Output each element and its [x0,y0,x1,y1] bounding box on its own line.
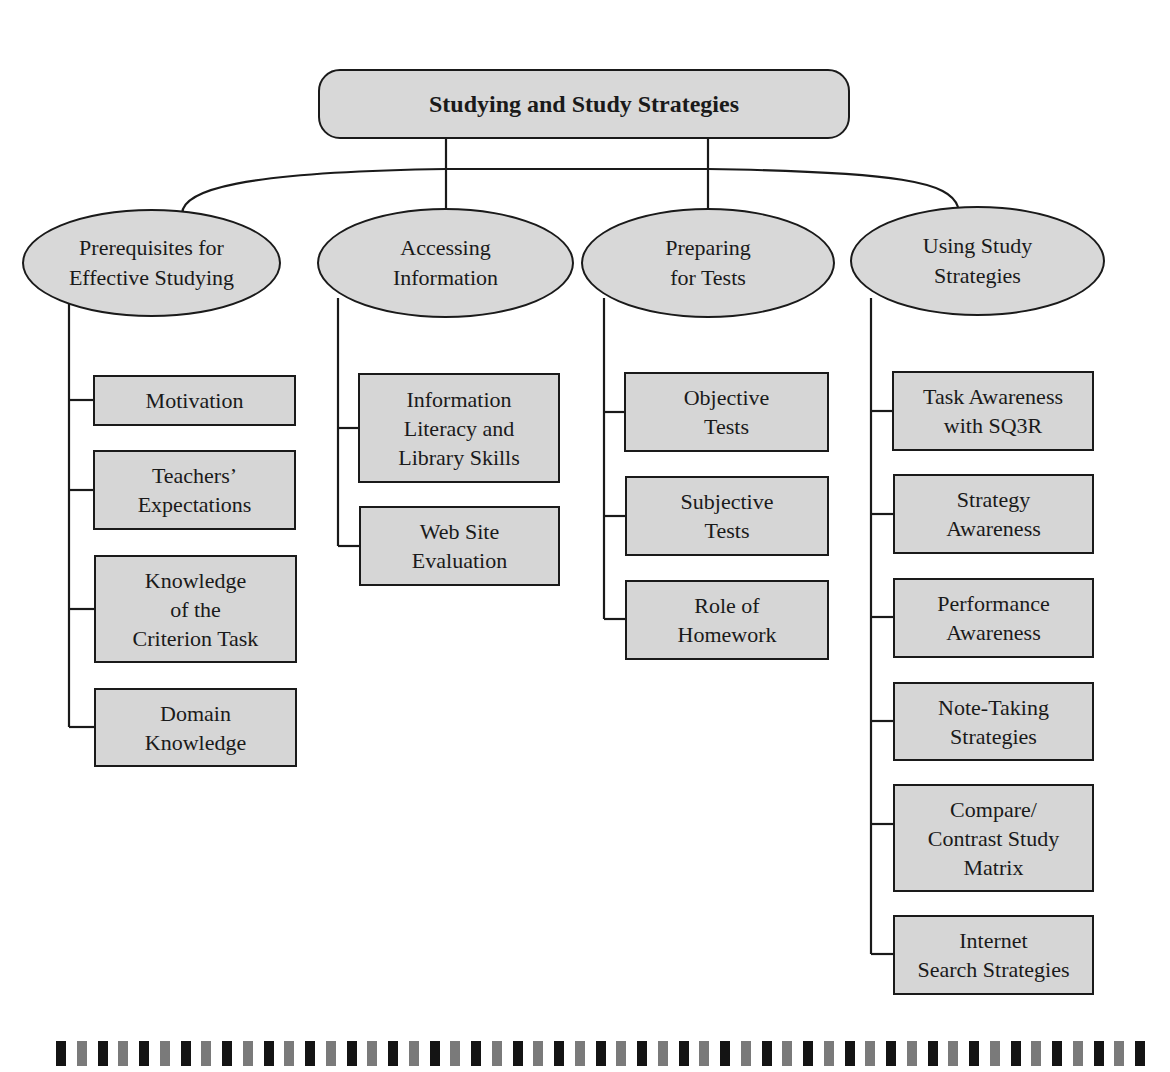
strip-bar [907,1041,917,1066]
strip-bar [679,1041,689,1066]
strip-bar [865,1041,875,1066]
strip-bar [928,1041,938,1066]
node-compare-contrast-matrix: Compare/ Contrast Study Matrix [893,784,1094,892]
strip-bar [326,1041,336,1066]
strip-bar [305,1041,315,1066]
strip-bar [1011,1041,1021,1066]
strip-bar [430,1041,440,1066]
strip-bar [782,1041,792,1066]
node-information-literacy: Information Literacy and Library Skills [358,373,560,483]
strip-bar [201,1041,211,1066]
node-objective-tests: Objective Tests [624,372,829,452]
strip-bar [824,1041,834,1066]
branch-preparing-for-tests: Preparing for Tests [581,208,835,318]
strip-bar [886,1041,896,1066]
strip-bar [1052,1041,1062,1066]
strip-bar [1135,1041,1145,1066]
strip-bar [575,1041,585,1066]
strip-bar [367,1041,377,1066]
strip-bar [77,1041,87,1066]
node-knowledge-criterion-task: Knowledge of the Criterion Task [94,555,297,663]
strip-bar [658,1041,668,1066]
strip-bar [284,1041,294,1066]
node-task-awareness-sq3r: Task Awareness with SQ3R [892,371,1094,451]
strip-bar [118,1041,128,1066]
strip-bar [98,1041,108,1066]
strip-bar [554,1041,564,1066]
node-internet-search-strategies: Internet Search Strategies [893,915,1094,995]
strip-bar [450,1041,460,1066]
node-note-taking-strategies: Note-Taking Strategies [893,682,1094,761]
strip-bar [533,1041,543,1066]
node-teachers-expectations: Teachers’ Expectations [93,450,296,530]
strip-bar [1094,1041,1104,1066]
strip-bar [741,1041,751,1066]
strip-bar [409,1041,419,1066]
root-node: Studying and Study Strategies [318,69,850,139]
strip-bar [845,1041,855,1066]
node-performance-awareness: Performance Awareness [893,578,1094,658]
strip-bar [347,1041,357,1066]
root-title: Studying and Study Strategies [429,91,739,118]
strip-bar [969,1041,979,1066]
branch-using-study-strategies: Using Study Strategies [850,206,1105,316]
strip-bar [264,1041,274,1066]
strip-bar [388,1041,398,1066]
strip-bar [762,1041,772,1066]
node-motivation: Motivation [93,375,296,426]
strip-bar [1073,1041,1083,1066]
strip-bar [720,1041,730,1066]
strip-bar [160,1041,170,1066]
branch-accessing-information: Accessing Information [317,208,574,318]
strip-bar [596,1041,606,1066]
node-subjective-tests: Subjective Tests [625,476,829,556]
strip-bar [222,1041,232,1066]
strip-bar [181,1041,191,1066]
strip-bar [471,1041,481,1066]
strip-bar [139,1041,149,1066]
node-domain-knowledge: Domain Knowledge [94,688,297,767]
node-strategy-awareness: Strategy Awareness [893,474,1094,554]
strip-bar [56,1041,66,1066]
strip-bar [948,1041,958,1066]
strip-bar [1114,1041,1124,1066]
node-web-site-evaluation: Web Site Evaluation [359,506,560,586]
strip-bar [803,1041,813,1066]
strip-bar [492,1041,502,1066]
branch-prerequisites: Prerequisites for Effective Studying [22,209,281,317]
strip-bar [990,1041,1000,1066]
strip-bar [637,1041,647,1066]
node-role-of-homework: Role of Homework [625,580,829,660]
strip-bar [616,1041,626,1066]
decorative-bar-strip [56,1041,1156,1066]
strip-bar [513,1041,523,1066]
strip-bar [1031,1041,1041,1066]
strip-bar [243,1041,253,1066]
strip-bar [699,1041,709,1066]
